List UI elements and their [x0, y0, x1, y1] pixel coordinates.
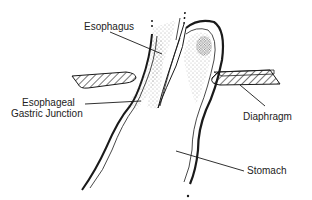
label-diaphragm: Diaphragm — [243, 111, 292, 122]
stomach-fundus — [184, 21, 223, 197]
left-diaphragm — [72, 72, 136, 88]
esophagogastric-junction-diagram: Esophagus Esophageal Gastric Junction Di… — [0, 0, 312, 200]
label-stomach: Stomach — [247, 165, 286, 176]
label-esophagus: Esophagus — [84, 21, 134, 32]
label-esophageal: Esophageal — [22, 97, 75, 108]
stomach-leader — [176, 151, 244, 171]
right-diaphragm — [212, 70, 280, 85]
label-gastric-junction: Gastric Junction — [11, 108, 83, 119]
diaphragm-leader — [240, 85, 265, 106]
